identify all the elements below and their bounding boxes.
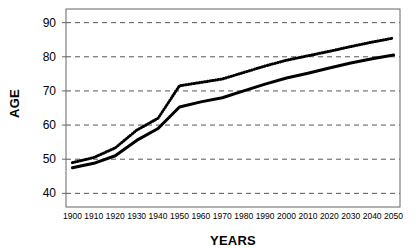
y-tick-label-60: 60 [22, 119, 56, 131]
plot-border [66, 9, 400, 207]
gridlines [66, 23, 400, 194]
data-series-group [72, 38, 393, 168]
y-tick-label-90: 90 [22, 17, 56, 29]
y-tick-label-40: 40 [22, 187, 56, 199]
x-axis-title: YEARS [66, 233, 400, 248]
series-solid-line [72, 55, 393, 168]
y-tick-label-80: 80 [22, 51, 56, 63]
y-tick-label-50: 50 [22, 153, 56, 165]
x-tick-label-2050: 2050 [381, 211, 407, 221]
y-tick-label-70: 70 [22, 85, 56, 97]
y-tick-marks [62, 23, 66, 194]
plot-frame [66, 9, 400, 207]
